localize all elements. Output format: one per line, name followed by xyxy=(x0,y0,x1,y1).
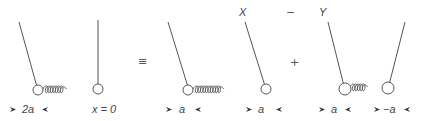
arrow-right-icon xyxy=(166,107,172,112)
arrow-left-icon xyxy=(276,107,282,112)
left-bob-icon xyxy=(33,85,43,95)
arrow-left-icon xyxy=(345,107,351,112)
equiv-operator: ≡ xyxy=(138,55,147,68)
spring-icon xyxy=(43,86,67,93)
arrow-left-icon xyxy=(195,107,201,112)
left-pendulum-string xyxy=(168,22,188,87)
left-pendulum-string xyxy=(19,22,37,87)
right-bob-icon xyxy=(261,84,271,94)
right-pendulum-string xyxy=(245,22,265,86)
label-left-displacement: a xyxy=(331,103,337,115)
label-y: Y xyxy=(319,6,327,18)
panel-x: X a a xyxy=(166,6,282,115)
arrow-right-icon xyxy=(374,107,380,112)
panel-original: 2a x = 0 xyxy=(10,20,117,115)
right-bob-icon xyxy=(382,82,394,94)
label-right-displacement: −a xyxy=(383,103,396,115)
panel-y: Y a −a xyxy=(319,6,410,115)
arrow-right-icon xyxy=(319,107,325,112)
arrow-left-icon xyxy=(42,107,48,112)
label-right-position: x = 0 xyxy=(91,103,117,115)
label-left-displacement: a xyxy=(179,103,185,115)
label-left-displacement: 2a xyxy=(21,103,34,115)
spring-icon xyxy=(193,86,224,93)
plus-operator: + xyxy=(290,56,299,69)
label-x: X xyxy=(238,6,247,18)
arrow-right-icon xyxy=(10,107,16,112)
arrow-right-icon xyxy=(246,107,252,112)
spring-icon xyxy=(350,84,368,91)
left-pendulum-string xyxy=(328,22,344,86)
label-right-displacement: a xyxy=(258,103,264,115)
pendulum-diagram: 2a x = 0 ≡ X a a − + Y a −a xyxy=(0,0,423,121)
minus-operator: − xyxy=(286,6,295,19)
left-bob-icon xyxy=(339,83,351,95)
right-pendulum-string xyxy=(389,22,405,85)
arrow-left-icon xyxy=(404,107,410,112)
right-bob-icon xyxy=(93,84,103,94)
left-bob-icon xyxy=(183,85,193,95)
